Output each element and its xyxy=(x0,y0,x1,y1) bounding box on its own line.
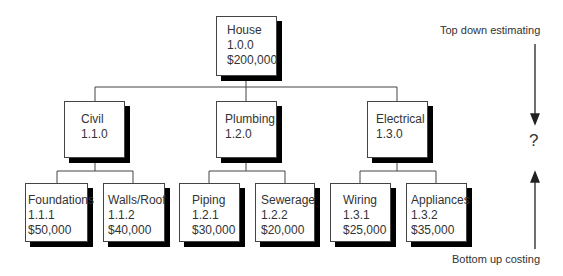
node-code: 1.2.1 xyxy=(192,208,239,223)
node-name: House xyxy=(227,23,276,38)
node-cost: $30,000 xyxy=(192,223,239,238)
node-code: 1.3.1 xyxy=(343,208,390,223)
node-cost: $20,000 xyxy=(261,223,314,238)
node-cost: $40,000 xyxy=(108,223,164,238)
node-electrical: Electrical 1.3.0 xyxy=(367,101,428,158)
node-name: Appliances xyxy=(411,193,466,208)
node-code: 1.3.2 xyxy=(411,208,466,223)
node-cost: $25,000 xyxy=(343,223,390,238)
wbs-diagram: House 1.0.0 $200,000 Civil 1.1.0 Plumbin… xyxy=(0,0,563,276)
node-code: 1.1.1 xyxy=(28,208,87,223)
top-down-label: Top down estimating xyxy=(440,24,540,36)
node-plumbing: Plumbing 1.2.0 xyxy=(216,101,277,158)
arrow-down-head xyxy=(531,114,539,124)
node-cost: $200,000 xyxy=(227,53,276,68)
node-code: 1.2.2 xyxy=(261,208,314,223)
node-appliances: Appliances 1.3.2 $35,000 xyxy=(406,183,467,242)
node-cost: $50,000 xyxy=(28,223,87,238)
node-code: 1.0.0 xyxy=(227,38,276,53)
question-mark: ? xyxy=(529,131,538,151)
node-house: House 1.0.0 $200,000 xyxy=(216,16,277,76)
node-foundations: Foundations 1.1.1 $50,000 xyxy=(25,183,88,242)
node-civil: Civil 1.1.0 xyxy=(64,101,125,158)
arrow-up-head xyxy=(531,172,539,182)
node-walls-roof: Walls/Roof 1.1.2 $40,000 xyxy=(103,183,165,242)
node-name: Wiring xyxy=(343,193,390,208)
node-code: 1.2.0 xyxy=(225,127,276,142)
bottom-up-label: Bottom up costing xyxy=(452,253,540,265)
node-name: Plumbing xyxy=(225,112,276,127)
node-name: Civil xyxy=(81,112,124,127)
node-code: 1.3.0 xyxy=(376,127,427,142)
node-piping: Piping 1.2.1 $30,000 xyxy=(179,183,240,242)
node-name: Walls/Roof xyxy=(108,193,164,208)
node-code: 1.1.0 xyxy=(81,127,124,142)
node-wiring: Wiring 1.3.1 $25,000 xyxy=(330,183,391,242)
node-name: Sewerage xyxy=(261,193,314,208)
node-code: 1.1.2 xyxy=(108,208,164,223)
node-cost: $35,000 xyxy=(411,223,466,238)
node-name: Foundations xyxy=(28,193,87,208)
node-name: Piping xyxy=(192,193,239,208)
node-name: Electrical xyxy=(376,112,427,127)
node-sewerage: Sewerage 1.2.2 $20,000 xyxy=(255,183,315,242)
